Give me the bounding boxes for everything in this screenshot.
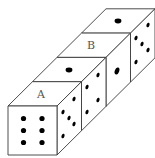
dice-diagram: B A bbox=[0, 0, 155, 158]
die-4-top-pip bbox=[115, 19, 122, 24]
die-1: A bbox=[8, 82, 82, 155]
label-a: A bbox=[36, 88, 46, 101]
label-b: B bbox=[87, 39, 95, 52]
die-1-front-face bbox=[8, 106, 57, 155]
die-2-top-pip bbox=[66, 68, 73, 73]
dice-row-svg: B A bbox=[0, 0, 155, 158]
